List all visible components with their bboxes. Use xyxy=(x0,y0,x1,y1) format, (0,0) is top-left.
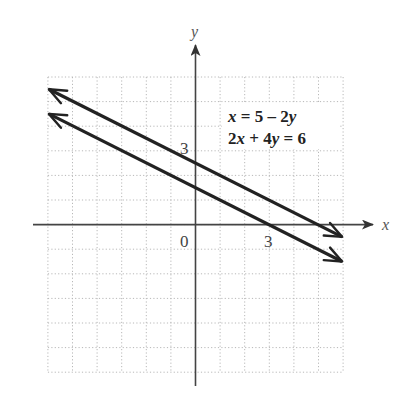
x-axis-label: x xyxy=(381,216,389,233)
y-axis-label: y xyxy=(189,23,199,41)
origin-label: 0 xyxy=(180,232,189,251)
equation-label-2: 2x + 4y = 6 xyxy=(228,129,306,148)
equation-label-1: x = 5 – 2y xyxy=(227,107,297,126)
x-tick-label-3: 3 xyxy=(264,232,273,251)
coordinate-plane: x y 3 0 3 x = 5 – 2y 2x + 4y = 6 xyxy=(0,0,411,408)
y-tick-label-3: 3 xyxy=(180,139,189,158)
